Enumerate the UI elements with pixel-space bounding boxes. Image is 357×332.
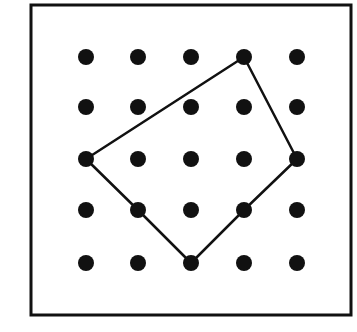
grid-dot-r0-c4 (289, 49, 305, 65)
grid-dot-r3-c2 (183, 202, 199, 218)
grid-dot-r2-c0 (78, 151, 94, 167)
grid-dot-r4-c0 (78, 255, 94, 271)
geoboard-diagram (0, 0, 357, 332)
grid-dot-r3-c0 (78, 202, 94, 218)
grid-dot-r3-c3 (236, 202, 252, 218)
grid-dot-r0-c3 (236, 49, 252, 65)
grid-dot-r0-c2 (183, 49, 199, 65)
grid-dot-r2-c1 (130, 151, 146, 167)
grid-dot-r4-c3 (236, 255, 252, 271)
grid-dot-r4-c4 (289, 255, 305, 271)
dot-grid (78, 49, 305, 271)
grid-dot-r4-c1 (130, 255, 146, 271)
grid-dot-r1-c0 (78, 99, 94, 115)
grid-dot-r1-c3 (236, 99, 252, 115)
grid-dot-r1-c1 (130, 99, 146, 115)
grid-dot-r0-c1 (130, 49, 146, 65)
grid-dot-r2-c3 (236, 151, 252, 167)
grid-dot-r1-c2 (183, 99, 199, 115)
grid-dot-r2-c4 (289, 151, 305, 167)
grid-dot-r4-c2 (183, 255, 199, 271)
grid-dot-r3-c1 (130, 202, 146, 218)
grid-dot-r0-c0 (78, 49, 94, 65)
grid-dot-r1-c4 (289, 99, 305, 115)
grid-dot-r2-c2 (183, 151, 199, 167)
grid-dot-r3-c4 (289, 202, 305, 218)
